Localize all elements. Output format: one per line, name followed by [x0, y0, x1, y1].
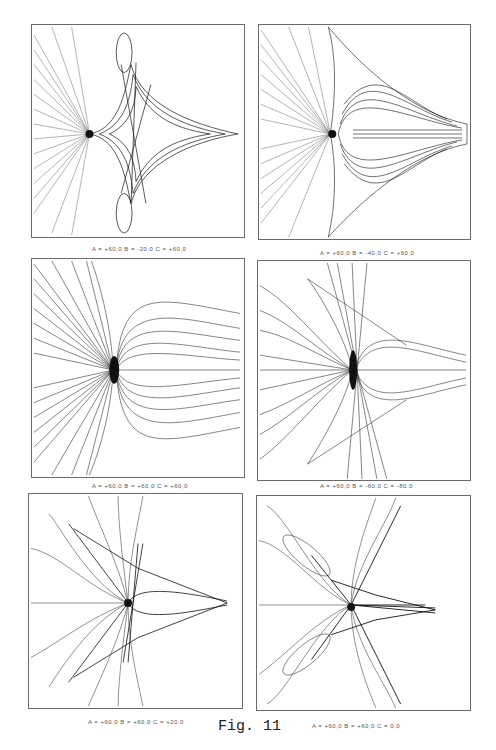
plot-panel-5 — [28, 493, 243, 709]
panel-2-caption: A = +60,0 B = -40,0 C = +60,0 — [320, 250, 414, 256]
caustic-curves-1 — [32, 25, 244, 237]
figure-label: Fig. 11 — [218, 718, 281, 735]
caustic-curves-4 — [258, 261, 470, 480]
plot-panel-6 — [256, 495, 471, 711]
panel-3-caption: A = +60,0 B = +60,0 C = +60,0 — [92, 483, 188, 489]
panel-5-caption: A = +60,0 B = +60,0 C = +20,0 — [88, 719, 184, 725]
plot-panel-2 — [258, 24, 471, 240]
panel-6-caption: A = +60,0 B = +60,0 C = 0,0 — [312, 723, 400, 729]
panel-1-caption: A = +60,0 B = -20,0 C = +60,0 — [92, 246, 186, 252]
plot-panel-1 — [31, 24, 245, 238]
caustic-curves-5 — [29, 494, 242, 708]
plot-panel-4 — [257, 260, 471, 481]
caustic-curves-2 — [259, 25, 470, 239]
plot-panel-3 — [31, 258, 245, 478]
panel-4-caption: A = +60,0 B = -60,0 C = -80,0 — [320, 483, 413, 489]
caustic-curves-3 — [32, 259, 244, 477]
caustic-curves-6 — [257, 496, 470, 710]
